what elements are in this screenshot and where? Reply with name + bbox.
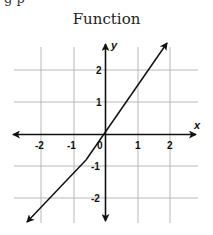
- y-tick-neg1: -1: [91, 161, 100, 172]
- y-tick-1: 1: [96, 97, 102, 108]
- y-tick-neg2: -2: [91, 193, 100, 204]
- x-tick-1: 1: [135, 140, 141, 151]
- coordinate-plane: x y -2 -1 0 1 2 2 1 -1 -2: [0, 0, 213, 235]
- x-tick-neg1: -1: [67, 140, 76, 151]
- x-tick-0: 0: [97, 140, 103, 151]
- y-tick-2: 2: [96, 65, 102, 76]
- function-line-lower: [27, 160, 86, 222]
- x-axis-label: x: [193, 119, 201, 131]
- x-tick-2: 2: [167, 140, 173, 151]
- y-axis-label: y: [110, 39, 118, 51]
- x-tick-neg2: -2: [35, 140, 44, 151]
